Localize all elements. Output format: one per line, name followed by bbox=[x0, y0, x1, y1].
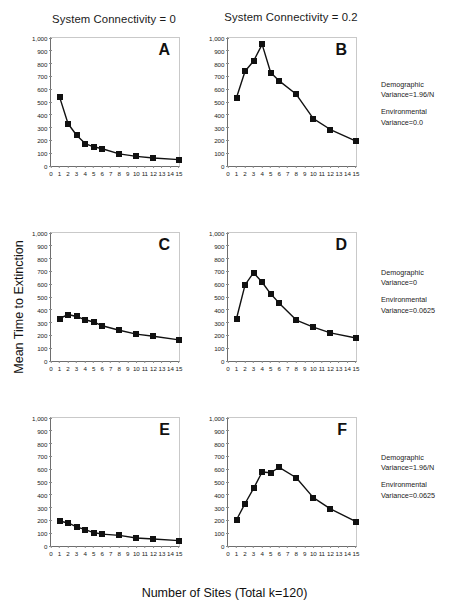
x-tick-label: 6 bbox=[277, 170, 280, 177]
x-tick-label: 0 bbox=[226, 170, 229, 177]
demographic-variance-value: Variance=1.96/N bbox=[381, 463, 449, 473]
y-tick-label: 800 bbox=[37, 255, 47, 262]
demographic-variance-note: DemographicVariance=1.96/N bbox=[381, 453, 449, 473]
x-tick-label: 12 bbox=[150, 550, 157, 557]
x-tick-label: 10 bbox=[133, 365, 140, 372]
data-point-marker bbox=[353, 335, 359, 341]
x-tick-label: 6 bbox=[277, 550, 280, 557]
x-tick-label: 10 bbox=[133, 170, 140, 177]
x-tick-label: 15 bbox=[353, 550, 360, 557]
x-tick-label: 11 bbox=[319, 170, 325, 177]
y-tick-label: 900 bbox=[214, 427, 224, 434]
variance-annotation: DemographicVariance=1.96/NEnvironmentalV… bbox=[381, 453, 449, 508]
y-tick-label: 900 bbox=[37, 242, 47, 249]
data-point-marker bbox=[91, 319, 97, 325]
data-point-marker bbox=[293, 91, 299, 97]
demographic-variance-value: Variance=0 bbox=[381, 278, 449, 288]
x-tick-label: 11 bbox=[319, 365, 325, 372]
figure-extinction-time: System Connectivity = 0 System Connectiv… bbox=[0, 0, 449, 611]
y-tick-label: 400 bbox=[214, 111, 224, 118]
data-point-marker bbox=[251, 270, 257, 276]
data-point-marker bbox=[259, 41, 265, 47]
x-tick-label: 1 bbox=[235, 550, 238, 557]
x-tick-label: 11 bbox=[319, 550, 325, 557]
x-tick-label: 14 bbox=[344, 170, 351, 177]
x-tick-label: 7 bbox=[109, 550, 112, 557]
x-tick-label: 12 bbox=[327, 170, 334, 177]
y-axis-label: Mean Time to Extinction bbox=[12, 232, 26, 382]
x-tick-label: 12 bbox=[150, 365, 157, 372]
panel-letter-c: C bbox=[158, 237, 170, 253]
x-tick-label: 0 bbox=[49, 550, 52, 557]
x-tick-label: 7 bbox=[109, 365, 112, 372]
x-tick-label: 6 bbox=[100, 170, 103, 177]
x-tick-label: 15 bbox=[176, 170, 183, 177]
data-point-marker bbox=[91, 144, 97, 150]
x-tick-label: 9 bbox=[303, 550, 306, 557]
x-tick-label: 4 bbox=[260, 550, 263, 557]
x-tick-label: 10 bbox=[310, 170, 317, 177]
data-point-marker bbox=[327, 506, 333, 512]
y-tick-label: 500 bbox=[214, 99, 224, 106]
data-point-marker bbox=[82, 317, 88, 323]
data-point-marker bbox=[82, 527, 88, 533]
panel-letter-f: F bbox=[337, 422, 347, 438]
x-tick-label: 3 bbox=[75, 550, 78, 557]
x-axis-label: Number of Sites (Total k=120) bbox=[0, 586, 449, 600]
x-tick-label: 5 bbox=[92, 550, 95, 557]
y-tick-label: 400 bbox=[37, 306, 47, 313]
x-tick-label: 8 bbox=[118, 170, 121, 177]
y-tick-label: 800 bbox=[214, 255, 224, 262]
x-tick-label: 13 bbox=[158, 550, 165, 557]
data-point-marker bbox=[82, 141, 88, 147]
panel-c: 01002003004005006007008009001,0000123456… bbox=[14, 225, 186, 385]
y-tick-label: 100 bbox=[37, 530, 47, 537]
y-tick-label: 1,000 bbox=[209, 230, 224, 237]
y-tick-label: 900 bbox=[214, 242, 224, 249]
data-point-marker bbox=[65, 121, 71, 127]
y-tick-label: 200 bbox=[37, 517, 47, 524]
x-tick-label: 4 bbox=[83, 550, 86, 557]
x-tick-label: 8 bbox=[295, 550, 298, 557]
data-point-marker bbox=[234, 316, 240, 322]
x-tick-label: 14 bbox=[167, 365, 174, 372]
y-tick-label: 100 bbox=[214, 530, 224, 537]
x-tick-label: 8 bbox=[295, 170, 298, 177]
panel-letter-b: B bbox=[335, 42, 347, 58]
data-point-marker bbox=[57, 518, 63, 524]
y-tick-label: 800 bbox=[37, 440, 47, 447]
y-tick-label: 800 bbox=[214, 60, 224, 67]
y-tick-label: 900 bbox=[37, 427, 47, 434]
x-tick-label: 13 bbox=[335, 365, 342, 372]
y-tick-label: 700 bbox=[214, 73, 224, 80]
panel-d: 01002003004005006007008009001,0000123456… bbox=[191, 225, 363, 385]
x-tick-label: 15 bbox=[176, 550, 183, 557]
y-tick-label: 600 bbox=[214, 281, 224, 288]
x-tick-label: 1 bbox=[58, 550, 61, 557]
data-point-marker bbox=[91, 530, 97, 536]
y-tick-label: 700 bbox=[214, 453, 224, 460]
x-tick-label: 11 bbox=[142, 550, 148, 557]
y-tick-label: 1,000 bbox=[32, 35, 47, 42]
y-tick-label: 100 bbox=[37, 150, 47, 157]
y-tick-label: 400 bbox=[214, 306, 224, 313]
data-point-marker bbox=[293, 317, 299, 323]
data-point-marker bbox=[116, 532, 122, 538]
environmental-variance-note: EnvironmentalVariance=0.0 bbox=[381, 107, 449, 127]
x-tick-label: 15 bbox=[353, 365, 360, 372]
environmental-variance-value: Variance=0.0 bbox=[381, 118, 449, 128]
data-point-marker bbox=[74, 132, 80, 138]
x-tick-label: 0 bbox=[226, 365, 229, 372]
data-point-marker bbox=[242, 68, 248, 74]
demographic-variance-note: DemographicVariance=0 bbox=[381, 268, 449, 288]
x-tick-label: 8 bbox=[118, 550, 121, 557]
y-tick-label: 400 bbox=[214, 491, 224, 498]
data-point-marker bbox=[327, 127, 333, 133]
y-tick-label: 300 bbox=[214, 319, 224, 326]
data-point-marker bbox=[133, 153, 139, 159]
x-tick-label: 9 bbox=[126, 170, 129, 177]
x-tick-label: 6 bbox=[100, 550, 103, 557]
x-tick-label: 3 bbox=[252, 365, 255, 372]
x-tick-label: 15 bbox=[176, 365, 183, 372]
y-tick-label: 300 bbox=[214, 124, 224, 131]
